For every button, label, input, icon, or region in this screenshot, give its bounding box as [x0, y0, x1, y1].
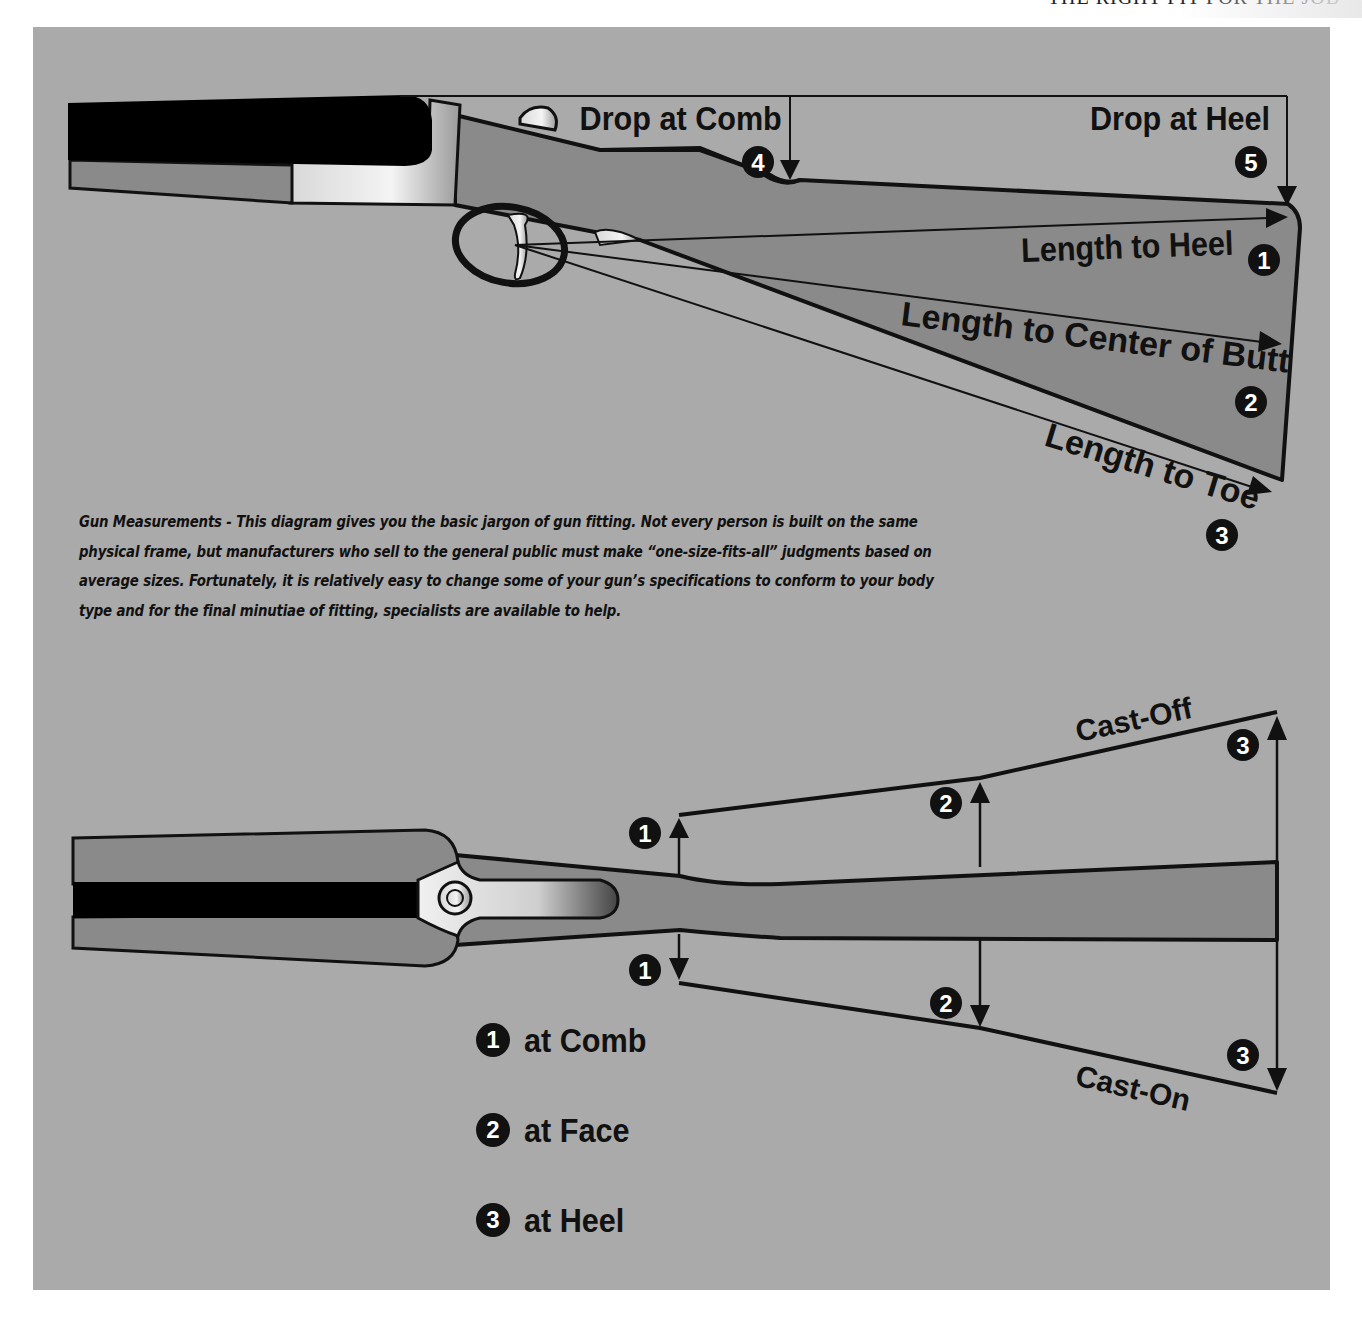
svg-text:4: 4 — [751, 149, 765, 176]
cast-legend: 1 at Comb 2 at Face 3 at Heel — [476, 1022, 660, 1292]
gun-measurements-diagram: Drop at Comb Drop at Heel 4 5 Length to … — [0, 0, 1362, 1319]
legend-number-badge: 2 — [476, 1113, 510, 1147]
svg-text:2: 2 — [939, 990, 952, 1017]
barrel-top-upper — [73, 830, 458, 887]
marker-length-heel: 1 — [1248, 244, 1280, 276]
marker-drop-comb: 4 — [742, 146, 774, 178]
forend-side — [70, 160, 292, 203]
svg-text:1: 1 — [638, 820, 651, 847]
svg-text:5: 5 — [1244, 149, 1257, 176]
legend-label: at Heel — [524, 1201, 624, 1240]
drop-at-heel-label: Drop at Heel — [1090, 100, 1270, 138]
legend-item-comb: 1 at Comb — [476, 1022, 660, 1058]
svg-text:1: 1 — [638, 957, 651, 984]
marker-comb-up: 1 — [629, 817, 661, 849]
marker-length-center-butt: 2 — [1235, 386, 1267, 418]
legend-label: at Comb — [524, 1021, 646, 1060]
legend-item-heel: 3 at Heel — [476, 1202, 660, 1238]
marker-heel-up: 3 — [1227, 729, 1259, 761]
svg-text:2: 2 — [939, 790, 952, 817]
top-lever — [520, 107, 556, 130]
legend-number-badge: 1 — [476, 1023, 510, 1057]
length-to-heel-label: Length to Heel — [1020, 224, 1234, 269]
barrel-side — [68, 95, 432, 166]
marker-face-down: 2 — [930, 987, 962, 1019]
marker-length-toe: 3 — [1206, 519, 1238, 551]
caption-text: Gun Measurements - This diagram gives yo… — [79, 508, 948, 626]
marker-heel-down: 3 — [1227, 1039, 1259, 1071]
stock-side — [455, 115, 1300, 480]
top-view-gun — [73, 830, 1277, 966]
rib-top — [73, 882, 433, 918]
svg-text:3: 3 — [1236, 1042, 1249, 1069]
legend-number-badge: 3 — [476, 1203, 510, 1237]
marker-comb-down: 1 — [629, 954, 661, 986]
svg-text:2: 2 — [1244, 389, 1257, 416]
legend-item-face: 2 at Face — [476, 1112, 660, 1148]
svg-text:1: 1 — [1257, 247, 1270, 274]
marker-face-up: 2 — [930, 787, 962, 819]
svg-text:3: 3 — [1236, 732, 1249, 759]
cast-on-label: Cast-On — [1073, 1059, 1194, 1117]
side-view-gun — [68, 95, 1300, 480]
barrel-top-lower — [73, 914, 458, 966]
cast-off-label: Cast-Off — [1072, 691, 1196, 748]
drop-at-comb-label: Drop at Comb — [580, 100, 782, 138]
legend-label: at Face — [524, 1111, 629, 1150]
marker-drop-heel: 5 — [1235, 146, 1267, 178]
svg-text:3: 3 — [1215, 522, 1228, 549]
